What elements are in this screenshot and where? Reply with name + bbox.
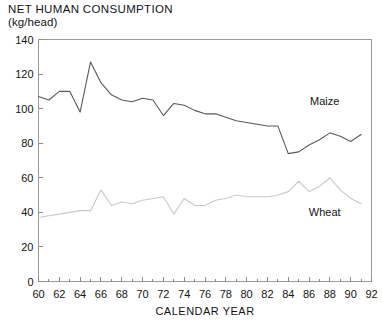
y-tick-label: 60 <box>21 172 33 184</box>
x-tick-label: 92 <box>365 288 377 300</box>
x-tick-label: 60 <box>32 288 44 300</box>
y-tick-label: 120 <box>15 68 33 80</box>
chart-figure: NET HUMAN CONSUMPTION (kg/head) 02040608… <box>0 0 382 325</box>
x-tick-label: 66 <box>95 288 107 300</box>
series-line-maize <box>39 62 362 154</box>
y-tick-label: 40 <box>21 206 33 218</box>
x-tick-label: 68 <box>116 288 128 300</box>
x-tick-label: 90 <box>345 288 357 300</box>
x-tick-label: 64 <box>74 288 86 300</box>
y-tick-label: 80 <box>21 137 33 149</box>
x-tick-label: 78 <box>220 288 232 300</box>
x-tick-label: 76 <box>199 288 211 300</box>
x-tick-label: 88 <box>324 288 336 300</box>
x-tick-label: 70 <box>136 288 148 300</box>
x-tick-label: 72 <box>157 288 169 300</box>
x-tick-label: 62 <box>53 288 65 300</box>
series-label-maize: Maize <box>310 95 339 107</box>
y-tick-label: 140 <box>15 34 33 46</box>
plot-frame <box>39 40 372 282</box>
y-tick-label: 20 <box>21 241 33 253</box>
x-tick-label: 80 <box>241 288 253 300</box>
x-axis-title: CALENDAR YEAR <box>155 305 254 317</box>
y-tick-label: 0 <box>27 276 33 288</box>
series-label-wheat: Wheat <box>309 206 341 218</box>
line-chart-plot: 0204060801001201406062646668707274767880… <box>0 0 382 325</box>
x-tick-label: 84 <box>282 288 294 300</box>
x-tick-label: 74 <box>178 288 190 300</box>
x-tick-label: 86 <box>303 288 315 300</box>
x-tick-label: 82 <box>261 288 273 300</box>
y-tick-label: 100 <box>15 103 33 115</box>
